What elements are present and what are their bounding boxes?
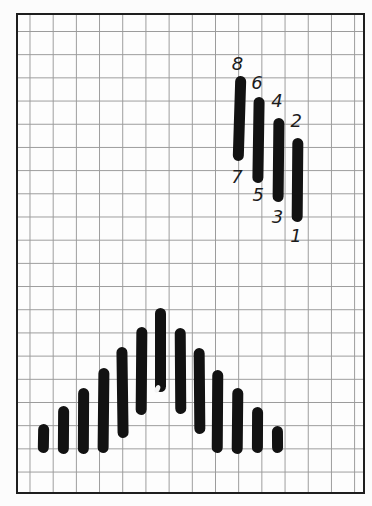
stitch-number-2: 2	[291, 112, 302, 130]
stitch-number-5: 5	[253, 186, 264, 204]
stitch-diagram-page: 87654321	[0, 0, 372, 506]
numbered-stitch-bar-1	[232, 76, 245, 161]
stitch-number-3: 3	[272, 208, 283, 226]
pyramid-stitch-bar-10	[212, 369, 223, 452]
stitch-number-1: 1	[290, 227, 301, 245]
pyramid-stitch-bar-12	[252, 407, 263, 453]
stitch-number-4: 4	[271, 92, 282, 110]
pyramid-stitch-bar-1	[38, 423, 49, 452]
pyramid-stitch-bar-11	[232, 388, 243, 454]
pyramid-stitch-bar-5	[116, 346, 128, 437]
pyramid-stitch-bar-2	[58, 405, 69, 453]
numbered-stitch-bar-2	[252, 96, 264, 182]
numbered-stitch-bar-3	[272, 117, 284, 201]
pyramid-stitch-bar-6	[136, 326, 147, 414]
pyramid-stitch-bar-13	[272, 426, 283, 453]
stitch-number-6: 6	[251, 74, 262, 92]
numbered-stitch-bar-4	[292, 138, 304, 222]
pyramid-stitch-bar-3	[78, 387, 89, 453]
pyramid-stitch-bar-4	[98, 367, 109, 452]
pyramid-stitch-bar-7	[155, 308, 166, 392]
stitch-number-7: 7	[231, 168, 242, 186]
pyramid-stitch-bar-9	[194, 348, 205, 434]
stitch-number-8: 8	[232, 55, 243, 73]
pyramid-stitch-bar-8	[174, 327, 185, 413]
